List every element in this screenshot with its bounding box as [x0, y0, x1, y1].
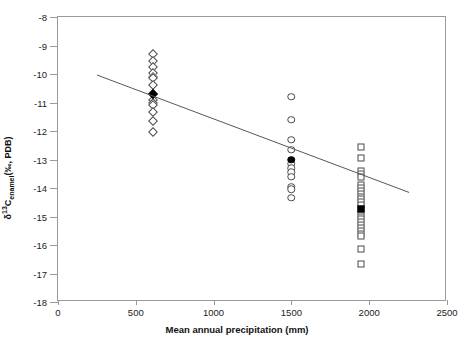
x-tick-label: 0 — [55, 307, 60, 318]
y-axis-title-delta: δ — [3, 214, 13, 219]
y-axis-title-element: C — [3, 200, 13, 207]
y-tick — [50, 188, 58, 189]
y-tick — [50, 245, 58, 246]
y-axis-title-superscript: 13 — [1, 206, 8, 214]
x-tick-label: 500 — [128, 307, 144, 318]
y-axis-title: δ13Cenamel(‰, PDB) — [1, 137, 15, 220]
y-tick-label: -13 — [33, 154, 47, 165]
y-tick — [50, 302, 58, 303]
y-axis-title-units: (‰, PDB) — [3, 137, 13, 176]
x-axis-title: Mean annual precipitation (mm) — [0, 324, 474, 335]
y-tick-label: -14 — [33, 183, 47, 194]
y-tick — [50, 46, 58, 47]
y-tick-label: -15 — [33, 211, 47, 222]
x-tick-label: 1500 — [281, 307, 302, 318]
x-tick — [447, 300, 448, 305]
x-tick-label: 1000 — [203, 307, 224, 318]
y-tick-label: -18 — [33, 297, 47, 308]
y-axis-title-subscript: enamel — [8, 176, 15, 200]
trendline — [97, 75, 409, 192]
figure-container: δ13Cenamel(‰, PDB) Mean annual precipita… — [0, 0, 474, 355]
y-tick-label: -10 — [33, 69, 47, 80]
y-tick — [50, 103, 58, 104]
x-tick — [58, 300, 59, 305]
y-tick-label: -11 — [34, 97, 47, 108]
y-tick — [50, 17, 58, 18]
plot-area: -8-9-10-11-12-13-14-15-16-17-18 05001000… — [57, 16, 446, 301]
x-tick-label: 2500 — [436, 307, 457, 318]
y-tick-label: -16 — [33, 240, 47, 251]
y-tick-label: -8 — [39, 12, 47, 23]
y-tick — [50, 74, 58, 75]
y-tick-label: -12 — [33, 126, 47, 137]
y-tick-label: -17 — [33, 268, 47, 279]
x-tick — [136, 300, 137, 305]
y-tick — [50, 274, 58, 275]
y-tick-label: -9 — [39, 40, 47, 51]
y-tick — [50, 217, 58, 218]
x-tick — [369, 300, 370, 305]
x-tick — [214, 300, 215, 305]
x-tick-label: 2000 — [359, 307, 380, 318]
y-tick — [50, 131, 58, 132]
regression-line — [58, 17, 445, 300]
x-tick — [291, 300, 292, 305]
y-tick — [50, 160, 58, 161]
